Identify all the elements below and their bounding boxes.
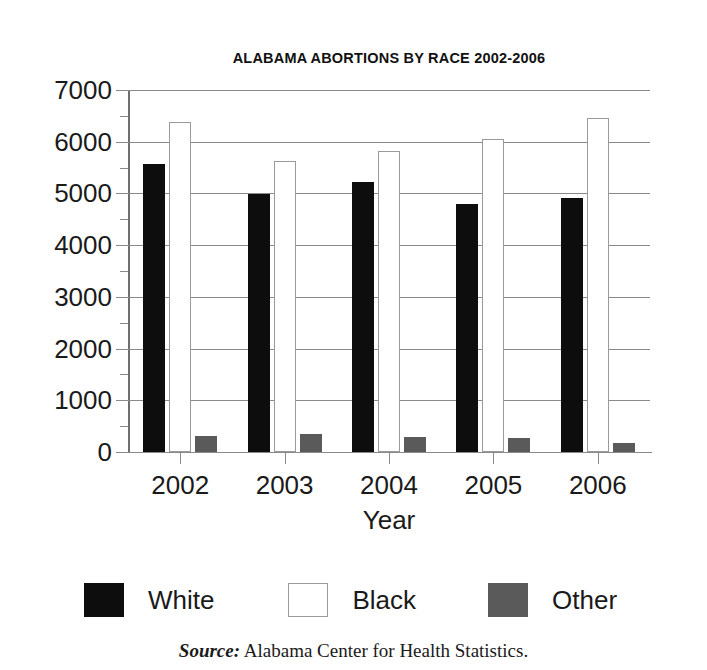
bar-black-2002 [169,122,191,452]
y-axis-tick-label: 7000 [54,77,112,103]
x-axis-tick [180,452,181,464]
x-axis-tick-label: 2004 [360,470,418,501]
x-axis-tick-label: 2006 [569,470,627,501]
bar-group [128,90,232,452]
bar-other-2004 [404,437,426,452]
x-axis-tick-label: 2003 [256,470,314,501]
bar-group [441,90,545,452]
y-axis-tick [116,90,128,91]
y-axis-tick [116,349,128,350]
y-axis-minor-tick [120,168,128,169]
bar-white-2006 [561,198,583,452]
x-axis-tick [389,452,390,464]
bar-white-2003 [248,194,270,452]
bar-black-2005 [482,139,504,452]
y-axis-minor-tick [120,426,128,427]
y-axis-tick-label: 3000 [54,284,112,310]
x-axis-tick [598,452,599,464]
y-axis-tick [116,297,128,298]
y-axis-tick-label: 2000 [54,336,112,362]
chart-title: ALABAMA ABORTIONS BY RACE 2002-2006 [128,50,650,66]
x-axis-tick [285,452,286,464]
bar-black-2003 [274,161,296,452]
y-axis-minor-tick [120,323,128,324]
source-label: Source: [179,640,240,661]
bar-white-2004 [352,182,374,452]
legend-label: Black [352,585,416,616]
bar-group [546,90,650,452]
y-axis-tick-label: 5000 [54,180,112,206]
y-axis-tick [116,245,128,246]
x-axis-title: Year [128,505,650,536]
bar-other-2005 [508,438,530,452]
source-note: Source: Alabama Center for Health Statis… [0,640,707,662]
x-axis-tick-label: 2005 [464,470,522,501]
y-axis-tick [116,400,128,401]
bar-other-2003 [300,434,322,452]
y-axis-minor-tick [120,374,128,375]
bar-black-2004 [378,151,400,452]
bar-white-2005 [456,204,478,452]
y-axis-tick [116,452,128,453]
legend-label: White [148,585,214,616]
y-axis-minor-tick [120,219,128,220]
y-axis-tick-label: 6000 [54,129,112,155]
bar-white-2002 [143,164,165,452]
y-axis-minor-tick [120,271,128,272]
x-axis-tick-label: 2002 [151,470,209,501]
y-axis-tick [116,142,128,143]
legend-item-black: Black [288,583,416,617]
x-axis-tick [493,452,494,464]
y-axis-minor-tick [120,116,128,117]
y-axis-tick-label: 1000 [54,387,112,413]
bar-black-2006 [587,118,609,452]
chart-figure: ALABAMA ABORTIONS BY RACE 2002-2006 7000… [0,0,707,670]
bar-other-2002 [195,436,217,452]
legend-item-white: White [84,583,214,617]
legend-label: Other [552,585,617,616]
y-axis-tick-label: 0 [98,439,112,465]
legend-item-other: Other [488,583,617,617]
chart-legend: WhiteBlackOther [60,583,660,617]
bar-group [337,90,441,452]
legend-swatch-icon [488,583,528,617]
bar-group [232,90,336,452]
bar-other-2006 [613,443,635,452]
legend-swatch-icon [84,583,124,617]
y-axis-tick-label: 4000 [54,232,112,258]
legend-swatch-icon [288,583,328,617]
y-axis-tick [116,193,128,194]
source-text: Alabama Center for Health Statistics. [240,640,528,661]
plot-area: 70006000500040003000200010000 [128,90,650,452]
